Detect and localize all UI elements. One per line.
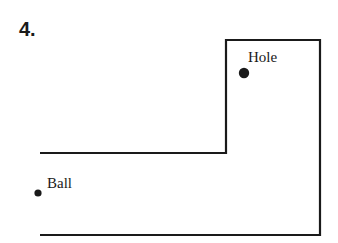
course-outline — [0, 0, 338, 243]
problem-number: 4. — [19, 18, 36, 41]
hole-dot — [239, 68, 249, 78]
ball-dot — [34, 189, 41, 196]
ball-label: Ball — [47, 175, 72, 192]
hole-label: Hole — [248, 49, 277, 66]
course-wall — [40, 40, 320, 235]
golf-diagram: 4. Hole Ball — [0, 0, 338, 243]
